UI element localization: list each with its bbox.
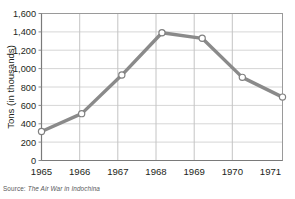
y-tick-label-0: 0 bbox=[31, 156, 36, 166]
y-tick-label-1200: 1,200 bbox=[13, 46, 36, 56]
source-note: Source: The Air War in Indochina bbox=[3, 185, 100, 192]
x-tick-label-1969: 1969 bbox=[184, 166, 205, 177]
chart-figure: 1,600 1,400 1,200 1,000 800 600 400 200 … bbox=[0, 0, 295, 199]
data-point-1965 bbox=[38, 128, 44, 134]
y-tick-label-800: 800 bbox=[21, 83, 36, 93]
y-tick-label-200: 200 bbox=[21, 138, 36, 148]
data-point-1969 bbox=[199, 35, 205, 41]
x-tick-label-1966: 1966 bbox=[69, 166, 90, 177]
y-tick-label-600: 600 bbox=[21, 101, 36, 111]
data-point-1968 bbox=[159, 30, 165, 36]
y-tick-label-1600: 1,600 bbox=[13, 9, 36, 19]
y-tick-labels: 1,600 1,400 1,200 1,000 800 600 400 200 … bbox=[13, 9, 36, 166]
x-tick-labels: 1965 1966 1967 1968 1969 1970 1971 bbox=[31, 166, 281, 177]
data-point-1967 bbox=[119, 72, 125, 78]
x-tick-label-1968: 1968 bbox=[145, 166, 166, 177]
y-tick-label-400: 400 bbox=[21, 119, 36, 129]
x-tick-label-1970: 1970 bbox=[222, 166, 243, 177]
x-tick-label-1971: 1971 bbox=[260, 166, 281, 177]
data-point-1971 bbox=[279, 94, 285, 100]
y-axis-title: Tons (in thousands) bbox=[5, 45, 16, 129]
y-tick-label-1000: 1,000 bbox=[13, 64, 36, 74]
source-note-title: The Air War in Indochina bbox=[28, 185, 100, 192]
x-tick-label-1965: 1965 bbox=[31, 166, 52, 177]
data-point-1966 bbox=[79, 111, 85, 117]
y-tick-label-1400: 1,400 bbox=[13, 27, 36, 37]
x-tick-label-1967: 1967 bbox=[107, 166, 128, 177]
data-point-1970 bbox=[239, 74, 245, 80]
line-chart: 1,600 1,400 1,200 1,000 800 600 400 200 … bbox=[0, 0, 295, 199]
source-note-prefix: Source: bbox=[3, 185, 26, 192]
